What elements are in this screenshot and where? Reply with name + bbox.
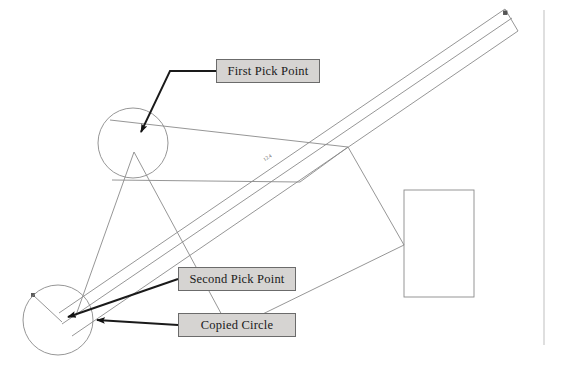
triangle-lines	[75, 147, 404, 330]
copied-circle-shape	[23, 285, 93, 355]
original-circle	[98, 108, 168, 178]
beam-endpoint-marker	[504, 11, 508, 15]
leader-first-pick-point	[141, 71, 216, 132]
leader-second-pick-point	[68, 279, 178, 317]
rectangle-shape	[404, 190, 474, 297]
diagram-screenshot: 12.4 First Pick Point Second Pick Point …	[0, 0, 572, 374]
leader-copied-circle	[97, 320, 178, 325]
callout-first-pick-point[interactable]: First Pick Point	[216, 59, 320, 83]
callout-copied-circle[interactable]: Copied Circle	[178, 313, 296, 337]
callout-second-pick-point[interactable]: Second Pick Point	[178, 267, 296, 291]
copied-circle-radius	[32, 294, 63, 323]
